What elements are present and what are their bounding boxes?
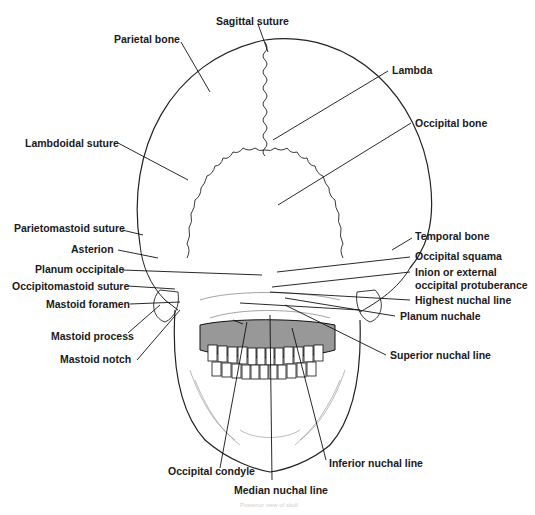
label-lambda: Lambda	[392, 64, 432, 76]
label-planum-occipitale: Planum occipitale	[35, 263, 124, 275]
lambdoid-suture-left	[187, 148, 265, 258]
label-temporal-bone: Temporal bone	[415, 230, 489, 242]
label-parietal-bone: Parietal bone	[114, 33, 180, 45]
label-parietomastoid-suture: Parietomastoid suture	[14, 222, 125, 234]
label-mastoid-notch: Mastoid notch	[60, 353, 131, 365]
lambdoid-suture-right	[265, 148, 343, 258]
label-asterion: Asterion	[71, 243, 114, 255]
label-occipital-condyle: Occipital condyle	[168, 465, 255, 477]
label-mastoid-process: Mastoid process	[51, 330, 134, 342]
label-sagittal-suture: Sagittal suture	[216, 15, 289, 27]
label-inion-line1: Inion or external	[415, 266, 497, 278]
skull-diagram: Sagittal suture Parietal bone Lambda Occ…	[0, 0, 535, 515]
mastoid-right	[357, 290, 382, 322]
label-highest-nuchal-line: Highest nuchal line	[415, 294, 511, 306]
cranium-outline	[137, 39, 432, 268]
label-occipitomastoid-suture: Occipitomastoid suture	[12, 280, 129, 292]
label-occipital-squama: Occipital squama	[415, 250, 502, 262]
label-lambdoidal-suture: Lambdoidal suture	[25, 137, 119, 149]
sagittal-suture-line	[263, 42, 267, 156]
label-inferior-nuchal-line: Inferior nuchal line	[329, 457, 423, 469]
label-occipital-bone: Occipital bone	[415, 117, 487, 129]
label-inion-line2: occipital protuberance	[415, 279, 528, 291]
label-median-nuchal-line: Median nuchal line	[234, 484, 328, 496]
label-planum-nuchale: Planum nuchale	[400, 310, 481, 322]
label-mastoid-foramen: Mastoid foramen	[46, 298, 130, 310]
label-superior-nuchal-line: Superior nuchal line	[390, 349, 491, 361]
figure-caption: Posterior view of skull	[240, 502, 298, 508]
